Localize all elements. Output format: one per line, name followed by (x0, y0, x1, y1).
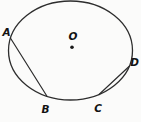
point-label-c: C (94, 103, 102, 114)
point-label-b: B (41, 103, 49, 114)
point-label-a: A (2, 27, 10, 38)
geometry-diagram: A B C D O (0, 0, 141, 122)
center-dot (70, 46, 74, 50)
diagram-canvas (0, 0, 141, 122)
point-label-d: D (130, 57, 139, 68)
center-label-o: O (69, 31, 78, 42)
chord-cd (99, 66, 129, 94)
circle-outline (9, 1, 133, 100)
